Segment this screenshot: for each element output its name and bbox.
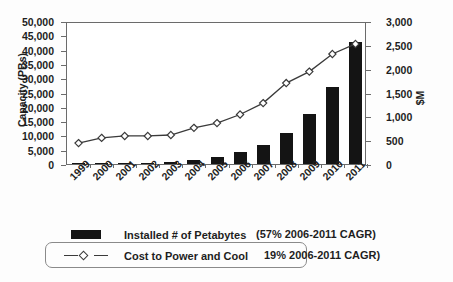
y-axis-right-tick-mark <box>366 22 371 23</box>
y-axis-left-tick-label: 15,000 <box>22 116 54 128</box>
y-axis-right-tick-label: 0 <box>386 159 392 171</box>
y-axis-left-tick-label: 30,000 <box>22 73 54 85</box>
line-marker-2003 <box>167 131 174 138</box>
y-axis-right-tick-label: 2,000 <box>386 64 412 76</box>
y-axis-left-tick-label: 35,000 <box>22 59 54 71</box>
y-axis-left-tick-mark <box>61 108 66 109</box>
y-axis-left-tick-label: 20,000 <box>22 102 54 114</box>
y-axis-left-tick-mark <box>61 151 66 152</box>
y-axis-left-tick-label: 25,000 <box>22 88 54 100</box>
y-axis-right-tick-label: 1,500 <box>386 88 412 100</box>
line-marker-2005 <box>213 120 220 127</box>
y-axis-right-tick-mark <box>366 94 371 95</box>
y-axis-left-tick-mark <box>61 136 66 137</box>
y-axis-left-tick-mark <box>61 165 66 166</box>
line-marker-2000 <box>98 134 105 141</box>
y-axis-right-tick-label: 500 <box>386 135 404 147</box>
y-axis-left-tick-mark <box>61 51 66 52</box>
y-axis-left-tick-mark <box>61 22 66 23</box>
line-marker-2004 <box>190 124 197 131</box>
y-axis-left-tick-mark <box>61 94 66 95</box>
y-axis-right-tick-mark <box>366 117 371 118</box>
diamond-marker-icon <box>79 251 89 261</box>
legend-bar-swatch <box>48 230 124 239</box>
legend-label-cost-to-power-and-cool: Cost to Power and Cool <box>124 250 248 262</box>
line-marker-2006 <box>236 111 243 118</box>
y-axis-left-tick-label: 45,000 <box>22 30 54 42</box>
line-path-cost-to-power-and-cool <box>79 44 356 143</box>
legend-item-installed-petabytes: Installed # of Petabytes <box>48 224 246 245</box>
y-axis-right-tick-mark <box>366 141 371 142</box>
y-axis-left-tick-label: 40,000 <box>22 45 54 57</box>
y-axis-right-tick-label: 3,000 <box>386 16 412 28</box>
line-marker-1999 <box>75 140 82 147</box>
y-axis-left-tick-label: 0 <box>48 159 54 171</box>
y-axis-left-ticks: 05,00010,00015,00020,00025,00030,00035,0… <box>2 22 62 165</box>
legend-note-cost-to-power-and-cool: 19% 2006-2011 CAGR) <box>264 245 380 266</box>
y-axis-left-tick-label: 5,000 <box>28 145 54 157</box>
y-axis-right-tick-mark <box>366 165 371 166</box>
legend-note-installed-petabytes: (57% 2006-2011 CAGR) <box>256 224 376 245</box>
line-marker-2001 <box>121 132 128 139</box>
y-axis-right-tick-mark <box>366 70 371 71</box>
y-axis-right-tick-mark <box>366 46 371 47</box>
chart-figure: Capacity (PBs) $M 05,00010,00015,00020,0… <box>0 0 453 282</box>
line-marker-2011 <box>352 40 359 47</box>
y-axis-left-tick-mark <box>61 65 66 66</box>
y-axis-right-ticks: 05001,0001,5002,0002,5003,000 <box>376 22 422 165</box>
x-axis-labels: 1999200020012002200320042005200620072008… <box>66 168 366 208</box>
legend-line-swatch <box>48 251 124 261</box>
line-marker-2002 <box>144 132 151 139</box>
legend-label-installed-petabytes: Installed # of Petabytes <box>124 229 246 241</box>
line-series <box>67 23 367 166</box>
y-axis-left-tick-label: 10,000 <box>22 130 54 142</box>
y-axis-left-tick-label: 50,000 <box>22 16 54 28</box>
y-axis-left-tick-mark <box>61 79 66 80</box>
chart-legend: Installed # of Petabytes (57% 2006-2011 … <box>48 224 428 274</box>
plot-area <box>66 22 366 165</box>
y-axis-left-tick-mark <box>61 36 66 37</box>
y-axis-right-tick-label: 1,000 <box>386 111 412 123</box>
y-axis-left-tick-mark <box>61 122 66 123</box>
legend-item-cost-to-power-and-cool: Cost to Power and Cool <box>48 245 248 266</box>
y-axis-right-tick-label: 2,500 <box>386 40 412 52</box>
